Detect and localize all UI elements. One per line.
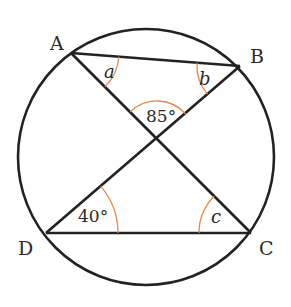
angle-label-d: 40°	[78, 206, 108, 226]
point-label-d: D	[18, 237, 33, 259]
angle-label-c: c	[211, 206, 221, 227]
point-label-c: C	[259, 237, 274, 259]
angle-label-a: a	[104, 61, 115, 82]
angle-label-center: 85°	[146, 106, 176, 126]
chord-ab	[71, 53, 240, 66]
circle	[18, 29, 274, 285]
point-label-b: B	[250, 45, 264, 67]
circle-chord-diagram: A B C D a b 85° 40° c	[0, 0, 291, 307]
point-label-a: A	[49, 32, 64, 54]
angle-label-b: b	[199, 68, 211, 89]
